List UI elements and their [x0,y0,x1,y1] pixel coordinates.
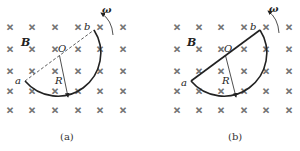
field-cross-icon: × [6,86,14,96]
field-cross-icon: × [74,105,82,115]
field-cross-icon: × [240,44,248,54]
omega-label: ω [102,4,112,15]
field-cross-icon: × [285,22,293,32]
field-cross-icon: × [119,22,127,32]
end-label-a: a [15,75,21,86]
field-label-B: B [20,36,30,49]
field-cross-icon: × [28,22,36,32]
field-cross-icon: × [96,22,104,32]
field-cross-icon: × [51,66,59,76]
field-cross-icon: × [240,22,248,32]
field-cross-icon: × [173,105,181,115]
field-cross-icon: × [6,66,14,76]
field-cross-icon: × [217,22,225,32]
field-cross-icon: × [285,66,293,76]
semicircle-conductor [25,30,101,96]
field-cross-icon: × [6,105,14,115]
field-cross-icon: × [195,22,203,32]
field-cross-icon: × [240,105,248,115]
field-cross-icon: × [51,86,59,96]
field-cross-icon: × [96,86,104,96]
field-cross-icon: × [51,105,59,115]
end-label-a: a [181,77,187,88]
field-cross-icon: × [217,66,225,76]
field-cross-icon: × [285,44,293,54]
field-cross-icon: × [119,66,127,76]
field-cross-icon: × [6,22,14,32]
field-cross-icon: × [285,86,293,96]
field-cross-icon: × [74,22,82,32]
field-cross-icon: × [173,66,181,76]
field-cross-icon: × [217,105,225,115]
field-cross-icon: × [74,66,82,76]
field-cross-icon: × [119,86,127,96]
field-cross-icon: × [173,22,181,32]
field-cross-icon: × [6,44,14,54]
radius-label-R: R [54,75,63,86]
panel-b: ×××××××××××××××××××××××××××××× B O R a b… [173,3,293,142]
field-cross-icon: × [74,44,82,54]
center-label-O: O [58,43,66,54]
end-label-b: b [250,21,256,32]
caption-b: (b) [228,131,242,142]
field-cross-icon: × [173,44,181,54]
field-cross-icon: × [262,22,270,32]
field-cross-icon: × [285,105,293,115]
end-label-b: b [84,21,90,32]
caption-a: (a) [60,131,74,142]
field-cross-icon: × [119,105,127,115]
field-cross-icon: × [173,86,181,96]
panel-a: ×××××××××××××××××××××××××××××× B O R a b… [6,4,127,142]
field-label-B: B [186,36,196,49]
radius-label-R: R [221,75,230,86]
field-cross-icon: × [262,86,270,96]
omega-label: ω [269,3,279,14]
field-cross-icon: × [119,44,127,54]
field-cross-icon: × [96,105,104,115]
field-cross-icon: × [195,105,203,115]
center-label-O: O [224,43,232,54]
field-cross-icon: × [51,22,59,32]
field-cross-icon: × [240,66,248,76]
diagram-canvas: ×××××××××××××××××××××××××××××× B O R a b… [0,0,300,151]
field-cross-icon: × [262,105,270,115]
field-cross-icon: × [195,44,203,54]
field-cross-icon: × [217,86,225,96]
field-cross-icon: × [28,105,36,115]
